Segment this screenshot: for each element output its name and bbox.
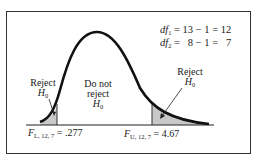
upper-critical-value: FU, 12, 7 = 4.67	[124, 129, 179, 142]
left-reject-label: RejectH0	[28, 78, 58, 101]
do-not-reject-label: Do notrejectH0	[78, 79, 118, 112]
df2-label: df2 = 8 − 1 = 7	[160, 38, 231, 51]
lower-critical-value: FL, 12, 7 = .277	[28, 128, 82, 141]
right-reject-label: RejectH0	[173, 67, 207, 90]
right-arrow	[162, 88, 182, 116]
